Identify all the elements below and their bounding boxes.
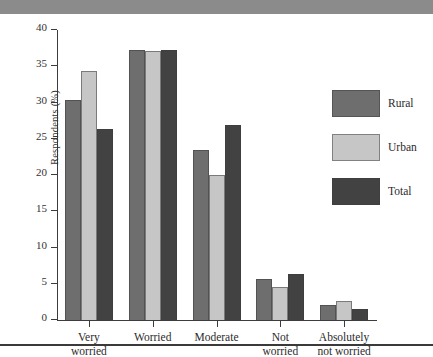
bar-rural — [65, 100, 81, 320]
legend-swatch-rural — [332, 90, 380, 117]
bar-urban — [81, 71, 97, 320]
bar-group — [65, 30, 113, 320]
chart-legend: RuralUrbanTotal — [332, 90, 432, 222]
y-tick-label: 30 — [36, 95, 47, 106]
x-tick-mark — [153, 321, 154, 327]
y-tick-label: 25 — [36, 131, 47, 142]
bar-total — [97, 129, 113, 320]
y-tick-label: 15 — [36, 203, 47, 214]
bar-group-bars — [129, 30, 177, 320]
x-tick-mark — [280, 321, 281, 327]
bar-urban — [209, 175, 225, 320]
legend-label-total: Total — [388, 185, 411, 197]
bar-rural — [129, 50, 145, 320]
plot-area: Very worriedWorriedModerateNot worriedAb… — [57, 30, 376, 320]
bar-group-bars — [193, 30, 241, 320]
bar-total — [225, 125, 241, 320]
bar-rural — [193, 150, 209, 320]
legend-swatch-urban — [332, 134, 380, 161]
legend-swatch-total — [332, 178, 380, 205]
bar-group-bars — [65, 30, 113, 320]
bar-chart-figure: 0510152025303540 Respondents (%) Very wo… — [0, 14, 433, 344]
x-tick-mark — [89, 321, 90, 327]
y-tick-label: 0 — [42, 312, 48, 323]
bar-total — [352, 309, 368, 320]
bar-group-bars — [256, 30, 304, 320]
legend-item-rural: Rural — [332, 90, 432, 134]
legend-item-urban: Urban — [332, 134, 432, 178]
x-tick-mark — [344, 321, 345, 327]
bar-total — [288, 274, 304, 320]
y-tick-label: 10 — [36, 240, 47, 251]
page-footer-rule — [0, 344, 433, 346]
bar-group — [129, 30, 177, 320]
y-tick-label: 40 — [36, 22, 47, 33]
legend-label-rural: Rural — [388, 97, 414, 109]
bar-urban — [145, 51, 161, 320]
bar-urban — [336, 301, 352, 320]
bar-rural — [320, 305, 336, 320]
x-tick-mark — [217, 321, 218, 327]
bar-group — [193, 30, 241, 320]
y-tick-label: 5 — [42, 276, 48, 287]
y-tick-label: 20 — [36, 167, 47, 178]
bar-group — [256, 30, 304, 320]
page-header-band — [0, 0, 433, 14]
bar-total — [161, 50, 177, 320]
bar-urban — [272, 287, 288, 320]
legend-item-total: Total — [332, 178, 432, 222]
bar-rural — [256, 279, 272, 320]
y-tick-label: 35 — [36, 58, 47, 69]
legend-label-urban: Urban — [388, 141, 417, 153]
